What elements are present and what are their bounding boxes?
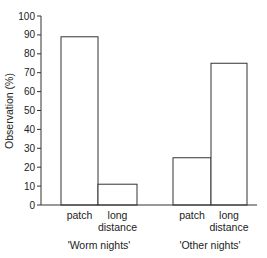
category-label-patch: patch (67, 209, 93, 221)
bar-chart: 0102030405060708090100 patchlongdistance… (0, 0, 267, 258)
y-tick-label: 20 (24, 162, 36, 173)
y-tick-label: 30 (24, 143, 36, 154)
bar-worm-long-distance (98, 184, 137, 205)
y-tick-label: 100 (18, 11, 35, 22)
bar-worm-patch (61, 37, 98, 205)
bar-other-patch (173, 158, 211, 205)
y-tick-label: 10 (24, 181, 36, 192)
y-tick-label: 90 (24, 29, 36, 40)
y-tick-label: 70 (24, 67, 36, 78)
bars (61, 37, 247, 205)
y-axis: 0102030405060708090100 (18, 11, 41, 211)
group-label-other-nights: 'Other nights' (179, 239, 240, 251)
y-tick-label: 50 (24, 105, 36, 116)
category-label-patch: patch (179, 209, 205, 221)
category-label-long: long (219, 209, 239, 221)
y-tick-label: 40 (24, 124, 36, 135)
y-tick-label: 60 (24, 86, 36, 97)
category-label-long: long (108, 209, 128, 221)
group-label-worm-nights: 'Worm nights' (68, 239, 131, 251)
y-tick-label: 80 (24, 48, 36, 59)
y-tick-label: 0 (29, 200, 35, 211)
x-axis: patchlongdistancepatchlongdistance (41, 205, 257, 233)
category-label-distance: distance (209, 221, 248, 233)
y-axis-title: Observation (%) (3, 73, 15, 149)
bar-other-long-distance (211, 63, 247, 205)
category-label-distance: distance (98, 221, 137, 233)
